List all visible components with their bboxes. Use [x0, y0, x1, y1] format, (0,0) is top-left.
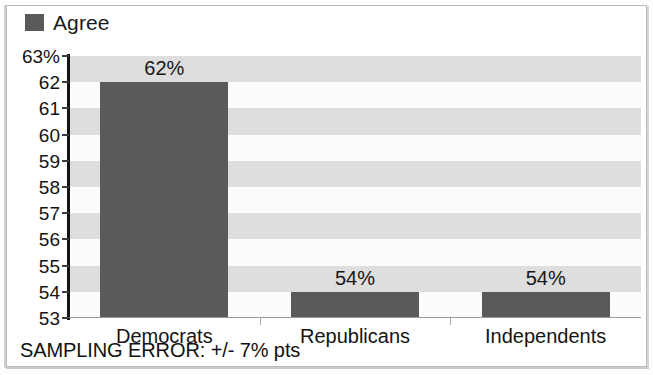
y-axis-tick-label: 63% [0, 47, 60, 66]
bar-value-label-democrats: 62% [104, 58, 224, 78]
y-axis-tick [62, 212, 69, 214]
y-axis-tick [62, 55, 69, 57]
y-axis-tick [62, 186, 69, 188]
y-axis-tick-label: 62 [0, 73, 60, 92]
legend-label-agree: Agree [53, 12, 110, 33]
y-axis-tick [62, 265, 69, 267]
y-axis-tick-label: 59 [0, 152, 60, 171]
x-axis-baseline [69, 317, 641, 318]
y-axis-tick [62, 160, 69, 162]
y-axis-tick-label: 57 [0, 204, 60, 223]
y-axis-tick-label: 55 [0, 257, 60, 276]
y-axis-tick [62, 81, 69, 83]
y-axis-tick-label: 60 [0, 126, 60, 145]
bar-democrats[interactable] [100, 82, 228, 317]
frame-edge-bottom [6, 367, 649, 369]
y-axis-tick [62, 238, 69, 240]
y-axis-tick-label: 61 [0, 99, 60, 118]
bar-value-label-independents: 54% [486, 268, 606, 288]
y-axis-tick-label: 56 [0, 230, 60, 249]
x-axis-tick [260, 318, 261, 325]
y-axis-tick [62, 291, 69, 293]
bar-republicans[interactable] [291, 292, 419, 317]
y-axis-tick-label: 53 [0, 309, 60, 328]
y-axis-labels: 63%62616059585756555453 [0, 0, 60, 375]
chart-screenshot: Agree 63%62616059585756555453 62%Democra… [0, 0, 653, 375]
y-axis-tick [62, 134, 69, 136]
sampling-error-note: SAMPLING ERROR: +/- 7% pts [20, 340, 300, 360]
x-axis-label-independents: Independents [456, 326, 636, 346]
y-axis-tick [62, 107, 69, 109]
bar-independents[interactable] [482, 292, 610, 317]
frame-edge-right [647, 6, 649, 368]
y-axis-tick-label: 58 [0, 178, 60, 197]
y-axis-tick [62, 317, 69, 319]
x-axis-tick [450, 318, 451, 325]
bar-value-label-republicans: 54% [295, 268, 415, 288]
y-axis-tick-label: 54 [0, 283, 60, 302]
